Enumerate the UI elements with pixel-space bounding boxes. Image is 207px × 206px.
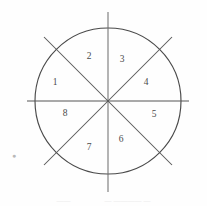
circle-sector-diagram [0,0,207,206]
sector-label-5: 5 [147,110,161,120]
sector-label-3: 3 [115,55,129,65]
sector-label-2: 2 [82,52,96,62]
sector-label-7: 7 [82,143,96,153]
figure-canvas: 1 2 3 4 5 6 7 8 ● —— — ———— — [0,0,207,206]
sector-label-4: 4 [139,78,153,88]
sector-label-1: 1 [48,78,62,88]
sector-label-8: 8 [58,109,72,119]
caption-right-fragment: — ———— — [105,197,151,205]
corner-dot-icon: ● [12,153,16,160]
bottom-caption: —— — ———— — [0,197,207,206]
sector-label-6: 6 [114,135,128,145]
caption-left-fragment: —— [57,197,71,205]
